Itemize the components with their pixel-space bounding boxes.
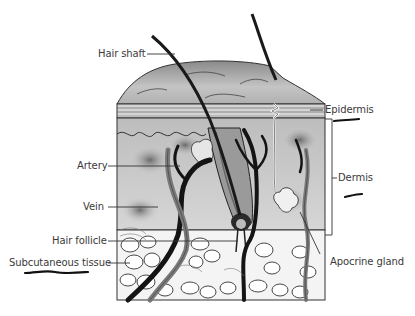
label-hair-follicle: Hair follicle: [52, 235, 107, 247]
label-dermis: Dermis: [338, 172, 373, 184]
label-apocrine-gland: Apocrine gland: [330, 256, 404, 268]
skin-surface: [117, 61, 325, 104]
dermis-bracket: [325, 119, 332, 235]
skin-diagram: Hair shaft Epidermis Dermis Artery Vein …: [0, 0, 415, 316]
subcutaneous-layer: [117, 230, 325, 300]
label-vein: Vein: [83, 201, 104, 213]
label-epidermis: Epidermis: [325, 104, 374, 116]
label-artery: Artery: [77, 160, 107, 172]
epidermis-layer: [117, 104, 325, 118]
label-hair-shaft: Hair shaft: [98, 48, 146, 60]
label-subcutaneous-tissue: Subcutaneous tissue: [9, 257, 111, 269]
